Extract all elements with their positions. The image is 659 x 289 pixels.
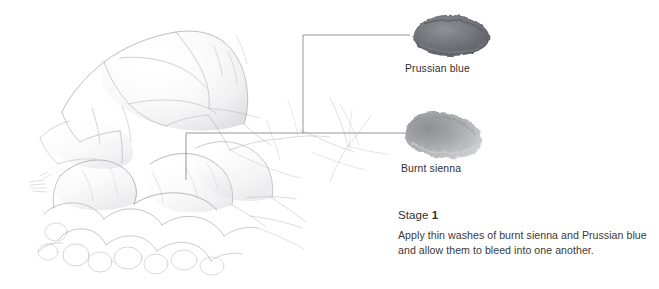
swatch-label-burnt-sienna: Burnt sienna: [401, 163, 461, 174]
swatch-label-prussian-blue: Prussian blue: [405, 63, 470, 74]
caption-body: Apply thin washes of burnt sienna and Pr…: [398, 228, 648, 257]
swatch-prussian-blue: [413, 15, 489, 56]
stage-heading-prefix: Stage: [398, 209, 429, 221]
caption-block: Stage 1 Apply thin washes of burnt sienn…: [398, 209, 648, 257]
illustration-page: Prussian blue Burnt sienna Stage 1 Apply…: [0, 0, 659, 289]
stage-heading: Stage 1: [398, 209, 648, 222]
stage-heading-number: 1: [432, 209, 439, 221]
swatch-burnt-sienna: [405, 112, 482, 159]
